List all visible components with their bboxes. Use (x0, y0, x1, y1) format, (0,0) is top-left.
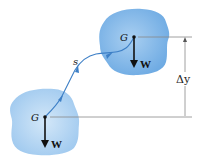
dimension-arrow-up-icon (183, 37, 187, 42)
lower-g-label: G (31, 112, 39, 123)
path-s-label: s (73, 56, 78, 67)
upper-w-label: W (140, 58, 151, 70)
lower-w-label: W (51, 138, 62, 150)
displacement-label: Δy (176, 73, 191, 86)
work-of-weight-diagram: Δy G W G W s (0, 0, 208, 159)
upper-g-label: G (120, 32, 128, 43)
